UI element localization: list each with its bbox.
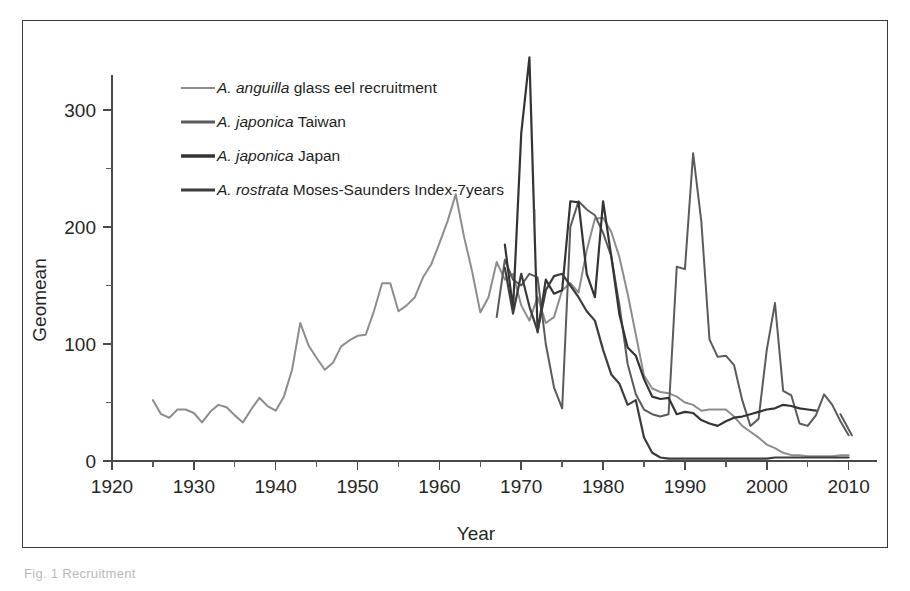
x-tick-label: 1930 xyxy=(173,476,215,497)
legend-label-rest: Japan xyxy=(294,147,341,164)
legend-label: A. japonica Japan xyxy=(216,147,340,164)
x-tick-label: 2010 xyxy=(827,476,869,497)
y-tick-label: 200 xyxy=(64,217,96,238)
legend-label-rest: Moses-Saunders Index-7years xyxy=(289,181,505,198)
y-tick-label: 0 xyxy=(85,451,96,472)
y-tick-label: 300 xyxy=(64,100,96,121)
x-tick-label: 1920 xyxy=(91,476,133,497)
series-line xyxy=(505,268,849,459)
x-tick-label: 1940 xyxy=(255,476,297,497)
legend-species-name: A. rostrata xyxy=(216,181,289,198)
figure-caption: Fig. 1 Recruitment xyxy=(24,566,136,581)
legend-species-name: A. anguilla xyxy=(216,79,290,96)
legend-label-rest: glass eel recruitment xyxy=(289,79,437,96)
x-tick-label: 1950 xyxy=(336,476,378,497)
legend-label-rest: Taiwan xyxy=(294,113,346,130)
legend-species-name: A. japonica xyxy=(216,113,294,130)
x-tick-label: 1960 xyxy=(418,476,460,497)
legend-species-name: A. japonica xyxy=(216,147,294,164)
x-tick-label: 1990 xyxy=(664,476,706,497)
figure-root: 0100200300192019301940195019601970198019… xyxy=(0,0,910,591)
x-tick-label: 1970 xyxy=(500,476,542,497)
legend-label: A. rostrata Moses-Saunders Index-7years xyxy=(216,181,504,198)
x-axis-title: Year xyxy=(457,523,496,544)
x-tick-label: 2000 xyxy=(746,476,788,497)
axes-layer: 0100200300192019301940195019601970198019… xyxy=(64,75,877,497)
y-tick-label: 100 xyxy=(64,334,96,355)
chart-canvas: 0100200300192019301940195019601970198019… xyxy=(0,0,910,591)
series-line xyxy=(497,153,849,435)
x-tick-label: 1980 xyxy=(582,476,624,497)
legend-layer: A. anguilla glass eel recruitmentA. japo… xyxy=(181,79,504,198)
y-axis-title: Geomean xyxy=(29,258,50,341)
legend-label: A. japonica Taiwan xyxy=(216,113,346,130)
legend-label: A. anguilla glass eel recruitment xyxy=(216,79,437,96)
